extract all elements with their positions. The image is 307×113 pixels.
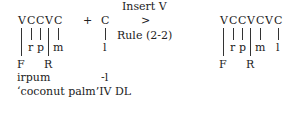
- association-line: [242, 28, 243, 40]
- association-line: [40, 28, 41, 40]
- left-melody-r: r: [28, 42, 33, 54]
- association-line: [48, 28, 49, 56]
- left-melody-m: m: [53, 42, 63, 54]
- right-skel-3: V: [247, 15, 255, 27]
- right-skel-0: V: [220, 15, 228, 27]
- plus-sign: +: [83, 15, 92, 27]
- association-line: [260, 28, 261, 40]
- association-line: [233, 28, 234, 40]
- suffix-skeleton: C: [101, 15, 109, 27]
- left-skel-1: C: [27, 15, 35, 27]
- gloss-suffix: -l: [101, 72, 108, 84]
- left-skel-3: V: [45, 15, 53, 27]
- gloss-translation: ‘coconut palm’IV DL: [17, 86, 131, 98]
- right-melody-p: p: [239, 42, 246, 54]
- association-line: [278, 28, 279, 40]
- right-melody-l: l: [276, 42, 280, 54]
- right-tier-f: F: [219, 59, 227, 71]
- association-line: [21, 28, 22, 56]
- right-melody-m: m: [255, 42, 265, 54]
- association-line: [223, 28, 224, 56]
- rule-arrow: >: [141, 15, 150, 27]
- association-line: [105, 28, 106, 40]
- association-line: [31, 28, 32, 40]
- right-skel-5: V: [265, 15, 273, 27]
- right-tier-r: R: [246, 59, 254, 71]
- left-tier-r: R: [44, 59, 52, 71]
- association-line: [250, 28, 251, 56]
- left-skel-0: V: [18, 15, 26, 27]
- right-skel-4: C: [256, 15, 264, 27]
- suffix-melody: l: [103, 42, 107, 54]
- left-melody-p: p: [37, 42, 44, 54]
- association-line: [58, 28, 59, 40]
- right-melody-r: r: [230, 42, 235, 54]
- left-tier-f: F: [17, 59, 25, 71]
- right-skel-6: C: [274, 15, 282, 27]
- left-skel-4: C: [54, 15, 62, 27]
- right-skel-2: C: [238, 15, 246, 27]
- right-skel-1: C: [229, 15, 237, 27]
- rule-line1: Insert V: [122, 1, 167, 13]
- gloss-stem: irpum: [17, 72, 50, 84]
- left-skel-2: C: [36, 15, 44, 27]
- rule-line2: Rule (2-2): [117, 30, 172, 42]
